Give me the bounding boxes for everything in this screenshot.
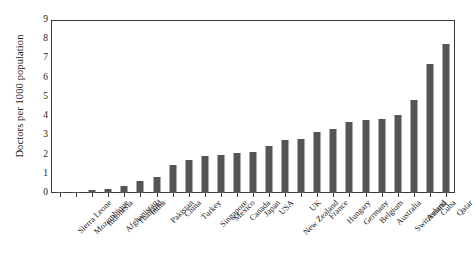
bar-slot (325, 21, 341, 193)
bar (442, 44, 449, 193)
bar (394, 115, 401, 193)
x-tick-mark (301, 193, 302, 197)
x-tick-mark (317, 193, 318, 197)
bar (378, 119, 385, 193)
bar (282, 140, 289, 193)
x-tick-mark (446, 193, 447, 197)
y-tick-label: 9 (26, 15, 48, 25)
y-tick-label: 8 (26, 34, 48, 44)
x-tick-mark (140, 193, 141, 197)
x-tick-mark (189, 193, 190, 197)
x-tick-mark (221, 193, 222, 197)
bar (314, 132, 321, 193)
bar-slot (197, 21, 213, 193)
y-tick-label: 1 (26, 169, 48, 179)
x-tick-mark (60, 193, 61, 197)
x-tick-mark (333, 193, 334, 197)
bar (426, 64, 433, 193)
bar-slot (358, 21, 374, 193)
bar-slot (229, 21, 245, 193)
x-tick-mark (237, 193, 238, 197)
bar-slot (68, 21, 84, 193)
x-tick-mark (76, 193, 77, 197)
x-tick-mark (157, 193, 158, 197)
bar (137, 181, 144, 193)
bar (330, 129, 337, 193)
x-tick-mark (269, 193, 270, 197)
bar-slot (52, 21, 68, 193)
x-tick-mark (285, 193, 286, 197)
bar-slot (181, 21, 197, 193)
bar-slot (309, 21, 325, 193)
bar-slot (341, 21, 357, 193)
bars-container (52, 21, 454, 193)
bar-slot (116, 21, 132, 193)
x-tick-mark (124, 193, 125, 197)
bar (233, 153, 240, 193)
x-tick-mark (108, 193, 109, 197)
bar-slot (390, 21, 406, 193)
bar-slot (132, 21, 148, 193)
bar (346, 122, 353, 193)
bar-slot (84, 21, 100, 193)
x-tick-label-text: Qatar (455, 199, 474, 218)
y-tick-label: 3 (26, 130, 48, 140)
bar (298, 139, 305, 193)
y-tick-label: 7 (26, 53, 48, 63)
bar-slot (148, 21, 164, 193)
x-tick-mark (349, 193, 350, 197)
y-tick-label: 6 (26, 73, 48, 83)
bar (362, 120, 369, 193)
bar-slot (293, 21, 309, 193)
bar (121, 186, 128, 193)
x-tick-label-text: Turkey (200, 199, 223, 222)
bar-slot (100, 21, 116, 193)
bar (410, 100, 417, 193)
bar-slot (277, 21, 293, 193)
bar-slot (213, 21, 229, 193)
x-tick-label-text: USA (278, 199, 296, 217)
x-tick-mark (92, 193, 93, 197)
bar-slot (261, 21, 277, 193)
x-tick-label: Turkey (200, 199, 223, 222)
x-tick-mark (398, 193, 399, 197)
bar (201, 156, 208, 193)
y-tick-label: 4 (26, 111, 48, 121)
bar-slot (438, 21, 454, 193)
y-tick-label: 2 (26, 150, 48, 160)
x-tick-mark (173, 193, 174, 197)
bar (185, 160, 192, 193)
x-tick-mark (414, 193, 415, 197)
bar-slot (406, 21, 422, 193)
x-tick-label: Qatar (455, 199, 474, 218)
x-tick-mark (253, 193, 254, 197)
x-tick-mark (366, 193, 367, 197)
y-tick-label: 5 (26, 92, 48, 102)
bar-slot (245, 21, 261, 193)
bar (153, 177, 160, 193)
y-tick-label: 0 (26, 188, 48, 198)
x-tick-label: USA (278, 199, 296, 217)
bar (249, 152, 256, 193)
x-tick-mark (382, 193, 383, 197)
x-tick-mark (205, 193, 206, 197)
bar (169, 165, 176, 193)
bar-slot (422, 21, 438, 193)
bar-slot (374, 21, 390, 193)
bar-slot (165, 21, 181, 193)
bar (217, 155, 224, 193)
x-tick-mark (430, 193, 431, 197)
bar (266, 146, 273, 193)
